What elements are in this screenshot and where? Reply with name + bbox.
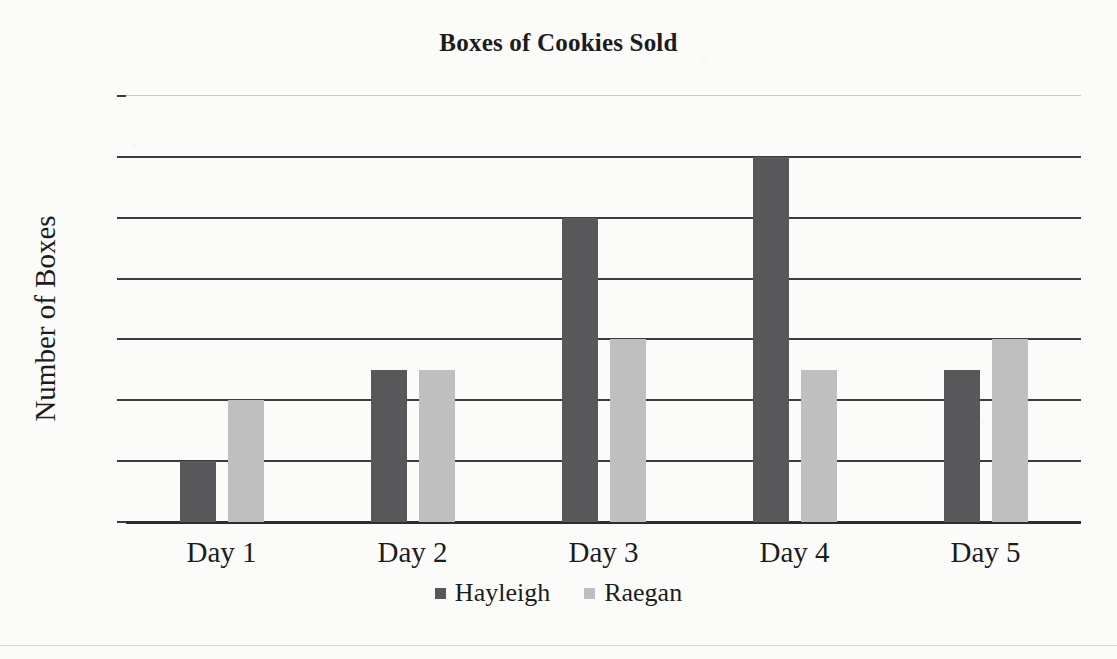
legend-entry-raegan[interactable]: Raegan <box>584 578 682 608</box>
bar-hayleigh-day-5 <box>944 370 980 522</box>
bar-hayleigh-day-4 <box>753 157 789 522</box>
bar-hayleigh-day-1 <box>180 461 216 522</box>
y-tick-mark-14 <box>117 95 126 97</box>
y-tick-mark-8 <box>117 278 126 280</box>
bar-raegan-day-3 <box>610 339 646 522</box>
legend-label-hayleigh: Hayleigh <box>455 578 550 608</box>
y-tick-mark-0 <box>117 521 126 523</box>
y-tick-mark-6 <box>117 338 126 340</box>
gridline-0 <box>126 521 1081 524</box>
gridline-10 <box>126 217 1081 219</box>
x-tick-label-day-2: Day 2 <box>333 536 493 569</box>
gridline-4 <box>126 399 1081 401</box>
bar-raegan-day-2 <box>419 370 455 522</box>
legend-swatch-icon-hayleigh <box>435 588 446 599</box>
chart-figure: Boxes of Cookies Sold Number of Boxes 02… <box>0 0 1117 659</box>
y-tick-mark-12 <box>117 156 126 158</box>
legend-entry-hayleigh[interactable]: Hayleigh <box>435 578 550 608</box>
gridline-2 <box>126 460 1081 462</box>
y-tick-mark-2 <box>117 460 126 462</box>
bar-raegan-day-1 <box>228 400 264 522</box>
x-tick-label-day-3: Day 3 <box>524 536 684 569</box>
x-tick-label-day-1: Day 1 <box>142 536 302 569</box>
legend-label-raegan: Raegan <box>604 578 682 608</box>
bar-hayleigh-day-3 <box>562 218 598 522</box>
bottom-rule <box>0 645 1117 646</box>
gridline-6 <box>126 338 1081 340</box>
chart-title: Boxes of Cookies Sold <box>0 29 1117 57</box>
bar-raegan-day-4 <box>801 370 837 522</box>
x-tick-label-day-5: Day 5 <box>906 536 1066 569</box>
chart-legend: HayleighRaegan <box>0 578 1117 608</box>
gridline-12 <box>126 156 1081 158</box>
x-tick-label-day-4: Day 4 <box>715 536 875 569</box>
plot-area: 02468101214 <box>126 96 1081 522</box>
gridline-14 <box>126 95 1081 96</box>
y-tick-mark-10 <box>117 217 126 219</box>
bar-raegan-day-5 <box>992 339 1028 522</box>
y-tick-mark-4 <box>117 399 126 401</box>
legend-swatch-icon-raegan <box>584 588 595 599</box>
gridline-8 <box>126 278 1081 280</box>
bar-hayleigh-day-2 <box>371 370 407 522</box>
y-axis-title: Number of Boxes <box>29 159 62 479</box>
